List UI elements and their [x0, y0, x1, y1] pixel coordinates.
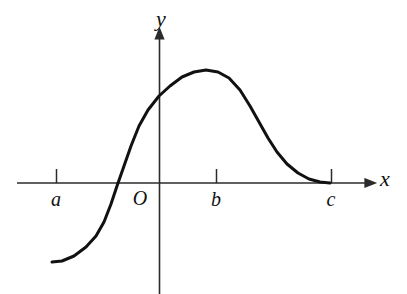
x-axis-label: x	[379, 166, 390, 191]
graph-canvas: y x O a b c	[0, 0, 407, 294]
function-curve	[52, 70, 330, 262]
origin-label: O	[133, 187, 147, 209]
tick-label-c: c	[327, 188, 336, 210]
tick-label-a: a	[51, 188, 61, 210]
y-axis-label: y	[154, 6, 166, 31]
tick-label-b: b	[211, 188, 221, 210]
function-graph-figure: y x O a b c	[0, 0, 407, 294]
